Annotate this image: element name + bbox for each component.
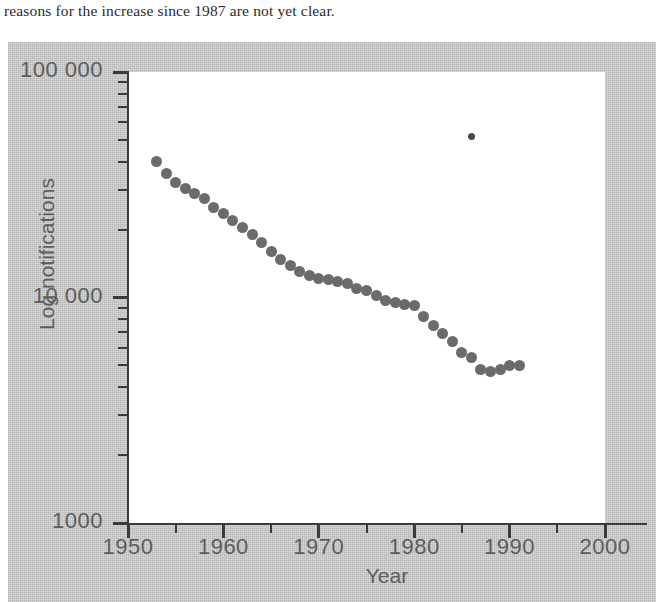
y-axis-tick-label: 1000 — [8, 508, 103, 534]
x-axis-tick-label: 1960 — [168, 534, 278, 560]
data-point — [514, 360, 525, 371]
figure-panel: 100010 000100 000 1950196019701980199020… — [8, 42, 656, 602]
page-caption-text: reasons for the increase since 1987 are … — [4, 2, 654, 20]
y-axis-minor-tick — [118, 93, 127, 95]
y-axis-major-tick — [113, 71, 127, 74]
x-axis-tick-label: 1980 — [359, 534, 469, 560]
y-axis-line — [127, 71, 129, 525]
x-axis-tick-label: 1990 — [455, 534, 565, 560]
x-axis-line — [127, 523, 647, 525]
y-axis-minor-tick — [118, 161, 127, 163]
data-point — [266, 246, 277, 257]
y-axis-minor-tick — [118, 189, 127, 191]
outlier-data-point — [468, 133, 475, 140]
x-axis-minor-tick — [556, 525, 558, 533]
y-axis-major-tick — [113, 522, 127, 525]
y-axis-minor-tick — [118, 318, 127, 320]
y-axis-tick-label: 100 000 — [8, 57, 103, 83]
x-axis-minor-tick — [175, 525, 177, 533]
x-axis-title: Year — [127, 564, 647, 588]
y-axis-minor-tick — [118, 307, 127, 309]
data-point — [247, 229, 258, 240]
y-axis-minor-tick — [118, 386, 127, 388]
y-axis-major-tick — [113, 296, 127, 299]
y-axis-minor-tick — [118, 331, 127, 333]
y-axis-minor-tick — [118, 454, 127, 456]
y-axis-minor-tick — [118, 139, 127, 141]
data-point — [237, 222, 248, 233]
y-axis-minor-tick — [118, 347, 127, 349]
y-axis-minor-tick — [118, 106, 127, 108]
x-axis-tick-label: 1950 — [73, 534, 183, 560]
x-axis-minor-tick — [270, 525, 272, 533]
data-point — [199, 193, 210, 204]
x-axis-minor-tick — [461, 525, 463, 533]
y-axis-minor-tick — [118, 414, 127, 416]
x-axis-minor-tick — [366, 525, 368, 533]
data-point — [161, 168, 172, 179]
data-point — [447, 336, 458, 347]
x-axis-tick-label: 2000 — [550, 534, 656, 560]
y-axis-minor-tick — [118, 121, 127, 123]
data-point — [409, 300, 420, 311]
y-axis-title: Log notifications — [35, 149, 59, 359]
y-axis-minor-tick — [118, 81, 127, 83]
x-axis-tick-label: 1970 — [264, 534, 374, 560]
y-axis-minor-tick — [118, 229, 127, 231]
y-axis-minor-tick — [118, 364, 127, 366]
plot-area — [128, 72, 605, 523]
